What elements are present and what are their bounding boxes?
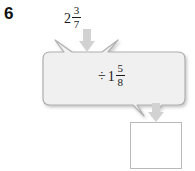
machine-operation-label: ÷ 1 5 8	[98, 64, 125, 89]
machine-fraction: 5 8	[116, 63, 125, 88]
machine-numerator: 5	[116, 63, 124, 75]
machine-mixed-number: ÷ 1 5 8	[98, 64, 125, 89]
machine-whole-number: 1	[108, 69, 115, 85]
input-down-arrow-icon	[79, 29, 95, 52]
machine-operator: ÷	[98, 69, 106, 85]
machine-denominator: 8	[116, 76, 124, 88]
answer-input-box[interactable]	[130, 122, 182, 169]
